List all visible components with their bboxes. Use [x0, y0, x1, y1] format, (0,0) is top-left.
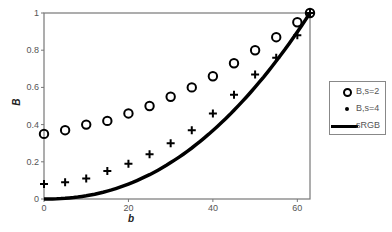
x-tick-label: 60: [292, 203, 302, 213]
circle-marker-icon: [230, 59, 238, 67]
legend-label: B,s=4: [356, 103, 379, 113]
plus-marker-icon: [82, 175, 90, 183]
plus-marker-icon: [188, 126, 196, 134]
plus-marker-icon: [103, 167, 111, 175]
circle-marker-icon: [251, 46, 259, 54]
plus-marker-icon: [251, 70, 259, 78]
plus-marker-icon: [230, 91, 238, 99]
plus-marker-icon: [167, 139, 175, 147]
legend-item-s4: B,s=4: [330, 102, 387, 116]
y-tick-label: 0.4: [26, 120, 39, 130]
line-marker-icon: [331, 125, 358, 128]
x-tick-label: 20: [123, 203, 133, 213]
x-tick-label: 40: [208, 203, 218, 213]
circle-marker-icon: [82, 120, 90, 128]
circle-marker-icon: [124, 109, 132, 117]
y-axis-label: B: [11, 98, 22, 105]
circle-marker-icon: [145, 102, 153, 110]
plot-frame: [44, 13, 310, 199]
circle-marker-icon: [343, 88, 352, 97]
circle-marker-icon: [272, 33, 280, 41]
legend-label: sRGB: [356, 120, 380, 130]
legend-item-s2: B,s=2: [330, 85, 387, 99]
circle-marker-icon: [103, 117, 111, 125]
plus-marker-icon: [124, 160, 132, 168]
y-tick-label: 0.6: [26, 82, 39, 92]
x-axis-label: b: [128, 213, 134, 224]
legend: B,s=2 B,s=4 sRGB: [329, 81, 386, 135]
circle-marker-icon: [188, 83, 196, 91]
x-tick-label: 0: [41, 203, 46, 213]
legend-item-srgb: sRGB: [330, 119, 387, 133]
y-tick-label: 0.8: [26, 45, 39, 55]
plus-marker-icon: [40, 180, 48, 188]
srgb-curve: [44, 13, 310, 199]
circle-marker-icon: [293, 18, 301, 26]
plus-marker-icon: [61, 178, 69, 186]
dot-marker-icon: [345, 107, 349, 111]
y-tick-label: 0.2: [26, 157, 39, 167]
legend-label: B,s=2: [356, 86, 379, 96]
plus-marker-icon: [209, 109, 217, 117]
circle-marker-icon: [209, 72, 217, 80]
y-tick-label: 1: [34, 8, 39, 18]
circle-marker-icon: [61, 126, 69, 134]
circle-marker-icon: [166, 93, 174, 101]
plus-marker-icon: [146, 150, 154, 158]
y-tick-label: 0: [34, 194, 39, 204]
